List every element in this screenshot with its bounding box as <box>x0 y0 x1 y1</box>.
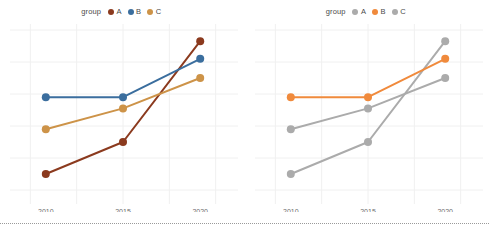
legend-entry-b[interactable]: B <box>372 7 386 16</box>
legend-left: group A B C <box>0 7 245 16</box>
legend-title: group <box>81 7 101 16</box>
legend-label-c: C <box>400 7 406 16</box>
legend-swatch-b-icon <box>128 9 134 15</box>
data-point-b-2015[interactable] <box>364 93 372 101</box>
chart-panel-left: group A B C 201020152020 <box>0 0 245 232</box>
data-point-a-2015[interactable] <box>119 138 127 146</box>
xtick-label-2015: 2015 <box>115 208 131 212</box>
legend-label-a: A <box>116 7 121 16</box>
chart-panel-right: group A B C 201020152020 <box>245 0 489 232</box>
plot-area-left: 201020152020 <box>0 22 245 212</box>
data-point-b-2010[interactable] <box>286 93 294 101</box>
legend-swatch-c-icon <box>147 9 153 15</box>
data-point-b-2010[interactable] <box>42 93 50 101</box>
data-point-a-2010[interactable] <box>42 170 50 178</box>
data-point-b-2020[interactable] <box>196 55 204 63</box>
data-point-c-2020[interactable] <box>196 74 204 82</box>
data-point-c-2015[interactable] <box>364 104 372 112</box>
data-point-a-2020[interactable] <box>441 37 449 45</box>
plot-svg-left: 201020152020 <box>0 22 245 212</box>
legend-entry-a[interactable]: A <box>352 7 366 16</box>
legend-entry-c[interactable]: C <box>392 7 406 16</box>
legend-swatch-b-icon <box>372 9 378 15</box>
data-point-c-2020[interactable] <box>441 74 449 82</box>
xaxis-right: 201020152020 <box>283 208 453 212</box>
legend-label-b: B <box>381 7 386 16</box>
xtick-label-2020: 2020 <box>192 208 208 212</box>
legend-label-a: A <box>361 7 366 16</box>
data-point-a-2015[interactable] <box>364 138 372 146</box>
legend-swatch-a-icon <box>352 9 358 15</box>
data-point-b-2020[interactable] <box>441 55 449 63</box>
legend-right: group A B C <box>245 7 489 16</box>
legend-swatch-a-icon <box>108 9 114 15</box>
legend-entry-b[interactable]: B <box>128 7 142 16</box>
data-point-a-2020[interactable] <box>196 37 204 45</box>
legend-title: group <box>326 7 346 16</box>
legend-label-c: C <box>156 7 162 16</box>
data-point-c-2015[interactable] <box>119 104 127 112</box>
xtick-label-2015: 2015 <box>360 208 376 212</box>
plot-area-right: 201020152020 <box>245 22 489 212</box>
data-point-a-2010[interactable] <box>286 170 294 178</box>
xtick-label-2010: 2010 <box>283 208 299 212</box>
xaxis-left: 201020152020 <box>38 208 208 212</box>
bottom-dotted-separator <box>0 223 489 224</box>
data-point-c-2010[interactable] <box>286 125 294 133</box>
data-point-b-2015[interactable] <box>119 93 127 101</box>
plot-svg-right: 201020152020 <box>245 22 489 212</box>
xtick-label-2010: 2010 <box>38 208 54 212</box>
legend-swatch-c-icon <box>392 9 398 15</box>
chart-figure: group A B C 201020152020 group <box>0 0 489 232</box>
data-point-c-2010[interactable] <box>42 125 50 133</box>
legend-label-b: B <box>136 7 141 16</box>
legend-entry-c[interactable]: C <box>147 7 161 16</box>
xtick-label-2020: 2020 <box>437 208 453 212</box>
legend-entry-a[interactable]: A <box>108 7 122 16</box>
